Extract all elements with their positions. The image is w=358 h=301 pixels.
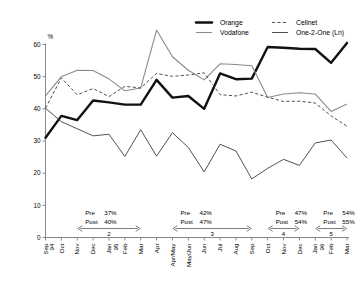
annotation-post-value: 54% bbox=[295, 218, 308, 225]
y-tick-label: 30 bbox=[33, 137, 41, 144]
annotation-pre-value: 54% bbox=[342, 209, 355, 216]
x-tick-label: Mar bbox=[137, 244, 144, 255]
annotation-pre-label: Pre bbox=[323, 209, 333, 216]
y-tick-label: 20 bbox=[33, 169, 41, 176]
chart-container: OrangeVodafoneCellnetOne-2-One (Ln) 6050… bbox=[0, 0, 358, 301]
annotation-post-value: 47% bbox=[199, 218, 212, 225]
svg-text:Nov: Nov bbox=[73, 243, 80, 255]
x-tick-label: Apr bbox=[153, 244, 160, 254]
y-tick-label: 40 bbox=[33, 105, 41, 112]
svg-text:Nov: Nov bbox=[280, 243, 287, 255]
y-tick-label: 60 bbox=[33, 41, 41, 48]
svg-text:Feb: Feb bbox=[327, 243, 334, 254]
annotation-bracket-3: 3Pre42%Post47% bbox=[173, 209, 251, 237]
annotation-bracket-5: 5Pre54%Post55% bbox=[316, 209, 355, 237]
series-layer bbox=[46, 30, 348, 179]
svg-text:Jun: Jun bbox=[200, 243, 207, 254]
annotation-post-label: Post bbox=[323, 218, 336, 225]
annotation-id-label: 2 bbox=[107, 231, 111, 237]
svg-text:Sep94: Sep94 bbox=[42, 243, 56, 255]
svg-text:Sep: Sep bbox=[248, 243, 255, 255]
annotation-id-label: 4 bbox=[282, 231, 286, 237]
annotation-post-label: Post bbox=[180, 218, 193, 225]
annotation-bracket-2: 2Pre37%Post40% bbox=[78, 209, 140, 237]
annotation-pre-value: 37% bbox=[104, 209, 117, 216]
y-tick-label: 0 bbox=[37, 234, 41, 241]
svg-text:Jul: Jul bbox=[216, 244, 223, 252]
y-axis: 6050403020100% bbox=[33, 33, 53, 241]
legend-item-cellnet: Cellnet bbox=[272, 19, 317, 26]
x-tick-label: Sep bbox=[248, 243, 255, 255]
annotation-post-label: Post bbox=[276, 218, 289, 225]
annotation-layer: 2Pre37%Post40%3Pre42%Post47%4Pre47%Post5… bbox=[78, 209, 355, 237]
x-tick-label: Jan95 bbox=[105, 243, 119, 254]
svg-text:Apr/May: Apr/May bbox=[169, 243, 176, 267]
svg-text:Feb: Feb bbox=[121, 243, 128, 254]
annotation-id-label: 5 bbox=[329, 231, 333, 237]
line-chart: OrangeVodafoneCellnetOne-2-One (Ln) 6050… bbox=[0, 0, 358, 301]
svg-text:Jan95: Jan95 bbox=[105, 243, 119, 254]
annotation-post-value: 55% bbox=[342, 218, 355, 225]
series-line-cellnet bbox=[46, 73, 348, 126]
y-axis-unit-label: % bbox=[48, 33, 54, 40]
svg-text:Apr: Apr bbox=[153, 244, 160, 254]
y-tick-label: 50 bbox=[33, 73, 41, 80]
svg-text:May/Jun: May/Jun bbox=[185, 243, 192, 267]
series-line-orange bbox=[46, 43, 348, 138]
x-tick-label: Aug bbox=[232, 243, 239, 255]
annotation-pre-label: Pre bbox=[85, 209, 95, 216]
x-tick-label: Mar bbox=[343, 244, 350, 255]
svg-text:Oct: Oct bbox=[264, 243, 271, 253]
x-tick-label: Jun bbox=[200, 243, 207, 254]
annotation-pre-label: Pre bbox=[276, 209, 286, 216]
x-tick-label: Oct bbox=[58, 243, 65, 253]
svg-text:Aug: Aug bbox=[232, 243, 239, 255]
annotation-post-label: Post bbox=[85, 218, 98, 225]
series-line-vodafone bbox=[46, 30, 348, 111]
x-tick-label: May/Jun bbox=[185, 243, 192, 267]
x-tick-label: Feb bbox=[121, 243, 128, 254]
annotation-bracket-4: 4Pre47%Post54% bbox=[268, 209, 307, 237]
x-tick-label: Dec bbox=[89, 244, 96, 255]
annotation-pre-label: Pre bbox=[180, 209, 190, 216]
legend-item-orange: Orange bbox=[196, 19, 243, 27]
legend-item-vodafone: Vodafone bbox=[196, 29, 249, 36]
legend-label-orange: Orange bbox=[220, 19, 243, 27]
svg-text:Mar: Mar bbox=[137, 244, 144, 255]
x-tick-label: Nov bbox=[280, 243, 287, 255]
y-tick-label: 10 bbox=[33, 202, 41, 209]
annotation-id-label: 3 bbox=[210, 231, 214, 237]
annotation-post-value: 40% bbox=[104, 218, 117, 225]
annotation-pre-value: 42% bbox=[199, 209, 212, 216]
svg-text:Dec: Dec bbox=[89, 244, 96, 255]
x-tick-label: Jan96 bbox=[311, 243, 325, 254]
svg-text:Jan96: Jan96 bbox=[311, 243, 325, 254]
x-tick-label: Nov bbox=[73, 243, 80, 255]
svg-text:Oct: Oct bbox=[58, 243, 65, 253]
legend-item-one-2-one-ln: One-2-One (Ln) bbox=[272, 29, 344, 37]
x-tick-label: Oct bbox=[264, 243, 271, 253]
svg-text:Mar: Mar bbox=[343, 244, 350, 255]
x-tick-label: Dec bbox=[296, 244, 303, 255]
chart-legend: OrangeVodafoneCellnetOne-2-One (Ln) bbox=[196, 19, 344, 37]
legend-label-cellnet: Cellnet bbox=[296, 19, 317, 26]
annotation-pre-value: 47% bbox=[295, 209, 308, 216]
x-tick-label: Jul bbox=[216, 244, 223, 252]
x-tick-label: Sep94 bbox=[42, 243, 56, 255]
x-tick-label: Apr/May bbox=[169, 243, 176, 267]
x-axis: Sep94OctNovDecJan95FebMarAprApr/MayMay/J… bbox=[42, 238, 351, 267]
series-line-one-2-one-ln bbox=[46, 108, 348, 179]
svg-text:Dec: Dec bbox=[296, 244, 303, 255]
x-tick-label: Feb bbox=[327, 243, 334, 254]
legend-label-one-2-one-ln: One-2-One (Ln) bbox=[296, 29, 344, 37]
legend-label-vodafone: Vodafone bbox=[220, 29, 249, 36]
